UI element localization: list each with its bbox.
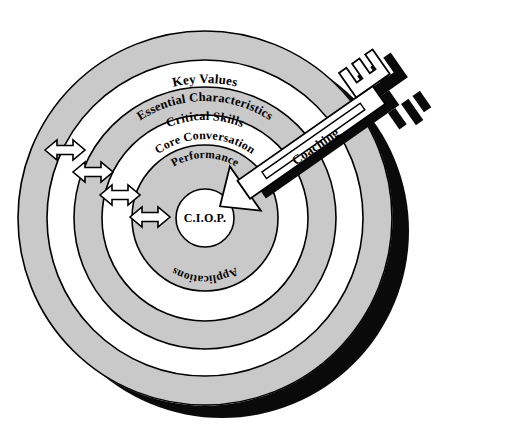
center-label-ciop: C.I.O.P. — [184, 211, 227, 225]
concentric-rings-diagram: Key Values Essential Characteristics Cri… — [0, 0, 505, 442]
diagram-canvas: Key Values Essential Characteristics Cri… — [0, 0, 505, 442]
